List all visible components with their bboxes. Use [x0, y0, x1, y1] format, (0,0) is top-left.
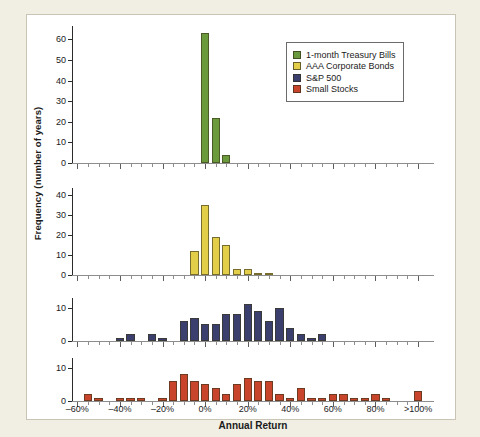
bar-s-p-500 [201, 324, 209, 341]
legend-swatch-icon [293, 62, 301, 70]
x-axis-tick [99, 164, 100, 167]
y-axis-tick [68, 195, 72, 196]
x-axis-tick [163, 276, 164, 281]
panel-small-stocks: 010 [72, 358, 434, 402]
x-axis-tick [375, 342, 376, 347]
x-axis-tick [301, 342, 302, 345]
x-axis-tick [386, 342, 387, 345]
bar-s-p-500 [233, 314, 241, 341]
x-axis-tick-label: >100% [404, 404, 432, 414]
x-axis-tick [258, 276, 259, 279]
x-axis-tick [141, 342, 142, 345]
bar-small-stocks [94, 398, 102, 401]
x-axis-tick [99, 342, 100, 345]
x-axis-tick [216, 342, 217, 345]
bar-s-p-500 [244, 304, 252, 341]
x-axis-tick [194, 342, 195, 345]
y-axis-tick-label: 0 [40, 396, 66, 406]
x-axis-tick-label: 80% [366, 404, 384, 414]
x-axis-tick [194, 276, 195, 279]
x-axis-tick [141, 164, 142, 167]
x-axis-tick [152, 342, 153, 345]
bar-small-stocks [414, 391, 422, 401]
x-axis-tick [216, 276, 217, 279]
x-axis-tick [344, 342, 345, 345]
bar-small-stocks [158, 398, 166, 401]
y-axis-tick-label: 10 [40, 137, 66, 147]
x-axis-line [72, 341, 434, 342]
x-axis-tick [120, 276, 121, 281]
chart-legend: 1-month Treasury BillsAAA Corporate Bond… [286, 42, 404, 102]
bar-s-p-500 [286, 328, 294, 341]
x-axis-tick [237, 276, 238, 279]
y-axis-tick [68, 308, 72, 309]
x-axis-tick [375, 276, 376, 281]
x-axis-tick [322, 164, 323, 167]
x-axis-line [72, 275, 434, 276]
bar-aaa-corporate-bonds [244, 269, 252, 275]
bar-s-p-500 [297, 334, 305, 341]
bar-aaa-corporate-bonds [254, 273, 262, 275]
x-axis-title: Annual Return [72, 420, 434, 431]
y-axis-tick [68, 163, 72, 164]
bar-small-stocks [361, 398, 369, 401]
bar-s-p-500 [318, 334, 326, 341]
x-axis-tick [173, 164, 174, 167]
x-axis-tick [120, 342, 121, 347]
x-axis-tick [88, 342, 89, 345]
x-axis-tick [237, 342, 238, 345]
x-axis-tick [333, 276, 334, 281]
x-axis-tick [365, 276, 366, 279]
bar-small-stocks [116, 398, 124, 401]
x-axis-tick [312, 342, 313, 345]
x-axis-tick [248, 164, 249, 169]
x-axis-tick [120, 164, 121, 169]
x-axis-tick [407, 164, 408, 167]
panel-corporate-bonds: 010203040 [72, 188, 434, 276]
bar-aaa-corporate-bonds [201, 205, 209, 275]
x-axis-tick [418, 276, 419, 281]
bar-small-stocks [297, 388, 305, 401]
x-axis-tick [173, 342, 174, 345]
figure-root: Frequency (number of years) 010203040506… [0, 0, 480, 437]
bar-s-p-500 [265, 321, 273, 341]
bar-s-p-500 [158, 338, 166, 341]
x-axis-tick-label: –20% [151, 404, 174, 414]
x-axis-tick [365, 342, 366, 345]
y-axis-tick-label: 10 [40, 363, 66, 373]
y-axis-tick [68, 368, 72, 369]
bar-small-stocks [180, 374, 188, 401]
y-axis-tick-label: 50 [40, 55, 66, 65]
x-axis-tick-label: 40% [281, 404, 299, 414]
x-axis-tick [184, 276, 185, 279]
x-axis-tick [312, 164, 313, 167]
y-axis-tick-label: 0 [40, 336, 66, 346]
x-axis-tick-label: 20% [239, 404, 257, 414]
x-axis-tick [77, 164, 78, 169]
y-axis-tick-label: 10 [40, 303, 66, 313]
x-axis-tick [322, 342, 323, 345]
bar-small-stocks [382, 398, 390, 401]
x-axis-tick [397, 276, 398, 279]
x-axis-tick [152, 276, 153, 279]
bar-small-stocks [339, 394, 347, 401]
x-axis-tick [226, 276, 227, 279]
bar-small-stocks [190, 381, 198, 401]
bar-small-stocks [244, 378, 252, 401]
y-axis-tick [68, 215, 72, 216]
bar-small-stocks [137, 398, 145, 401]
y-axis-tick-label: 20 [40, 117, 66, 127]
x-axis-tick [354, 164, 355, 167]
bar-small-stocks [222, 394, 230, 401]
x-axis-tick [333, 164, 334, 169]
y-axis-tick-label: 40 [40, 190, 66, 200]
x-axis-line [72, 401, 434, 402]
bar-s-p-500 [212, 324, 220, 341]
legend-label: Small Stocks [306, 84, 358, 94]
y-axis-line [72, 188, 73, 276]
x-axis-tick [269, 164, 270, 167]
y-axis-tick [68, 60, 72, 61]
y-axis-line [72, 26, 73, 164]
x-axis-tick [131, 164, 132, 167]
x-axis-tick [163, 164, 164, 169]
